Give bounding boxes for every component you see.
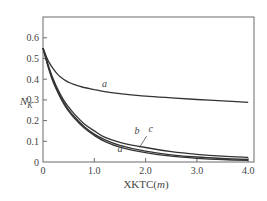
curve-d <box>43 48 248 160</box>
x-tick-label: 4.0 <box>242 165 255 176</box>
x-tick-label: 0 <box>41 165 46 176</box>
y-tick-label: 0.5 <box>27 53 40 64</box>
curve-label-c: c <box>149 123 154 134</box>
x-tick-label: 2.0 <box>139 165 152 176</box>
x-tick-label: 1.0 <box>88 165 101 176</box>
x-axis-ticks: 01.02.03.04.0 <box>41 158 255 176</box>
chart: 00.10.20.30.40.50.6 01.02.03.04.0 abcd N… <box>0 0 267 201</box>
curve-c <box>43 48 248 159</box>
plot-frame <box>43 17 254 162</box>
curve-a <box>43 48 248 102</box>
curve-label-a: a <box>102 78 107 89</box>
curve-label-b: b <box>134 125 139 136</box>
y-tick-label: 0.4 <box>27 74 40 85</box>
label-c-leader <box>139 136 146 147</box>
x-tick-label: 3.0 <box>191 165 204 176</box>
data-curves <box>43 48 248 160</box>
y-tick-label: 0.2 <box>27 115 40 126</box>
y-tick-label: 0.1 <box>27 136 40 147</box>
y-tick-label: 0 <box>34 157 39 168</box>
y-tick-label: 0.6 <box>27 32 40 43</box>
x-axis-label: XKTC(m) <box>123 178 169 191</box>
curve-b <box>43 48 248 157</box>
